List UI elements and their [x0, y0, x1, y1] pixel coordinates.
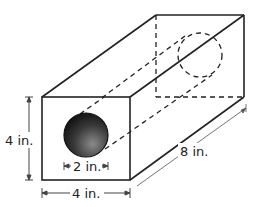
length-label: 8 in.: [180, 144, 208, 159]
back-hole-circle: [178, 33, 222, 77]
top-right-depth-edge: [130, 15, 244, 97]
top-left-depth-edge: [42, 15, 156, 97]
height-label: 4 in.: [5, 133, 33, 148]
bottom-right-depth-edge: [130, 97, 244, 180]
width-label: 4 in.: [72, 186, 100, 201]
prism-diagram: 4 in. 2 in. 4 in. 8 in.: [0, 0, 255, 207]
diameter-label: 2 in.: [73, 159, 101, 174]
front-hole: [64, 113, 108, 157]
